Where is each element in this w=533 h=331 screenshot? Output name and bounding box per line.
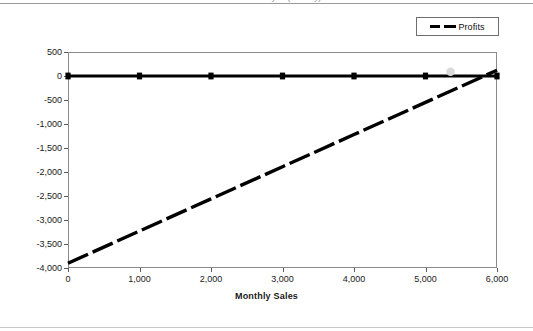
y-tick-mark (64, 76, 68, 77)
y-tick-label: 500 (16, 47, 62, 57)
x-tick-mark (497, 268, 498, 272)
x-tick-mark (283, 268, 284, 272)
y-tick-label: -3,000 (16, 215, 62, 225)
y-tick-label: -500 (16, 95, 62, 105)
plot-area (68, 52, 497, 268)
y-tick-mark (64, 196, 68, 197)
x-axis-title: Monthly Sales (0, 291, 533, 301)
x-tick-label: 3,000 (271, 274, 294, 284)
x-tick-mark (140, 268, 141, 272)
bottom-divider-rule (0, 327, 533, 328)
y-tick-mark (64, 172, 68, 173)
y-tick-mark (64, 100, 68, 101)
chart-legend: Profits (416, 17, 499, 36)
y-tick-label: -1,500 (16, 143, 62, 153)
y-tick-mark (64, 244, 68, 245)
x-tick-mark (354, 268, 355, 272)
x-tick-label: 2,000 (200, 274, 223, 284)
y-tick-mark (64, 148, 68, 149)
legend-item-label: Profits (458, 22, 484, 32)
legend-dashed-line-icon (430, 25, 456, 28)
top-divider-rule (0, 3, 533, 4)
x-tick-mark (68, 268, 69, 272)
x-tick-label: 1,000 (128, 274, 151, 284)
y-tick-label: -3,500 (16, 239, 62, 249)
chart-title-clipped: Break-Even Analysis (Monthly) (0, 0, 533, 2)
y-tick-label: -1,000 (16, 119, 62, 129)
y-tick-mark (64, 52, 68, 53)
y-tick-label: -2,500 (16, 191, 62, 201)
x-tick-label: 4,000 (343, 274, 366, 284)
y-tick-label: -2,000 (16, 167, 62, 177)
x-tick-label: 5,000 (414, 274, 437, 284)
x-tick-label: 0 (65, 274, 70, 284)
x-tick-label: 6,000 (486, 274, 509, 284)
x-tick-mark (426, 268, 427, 272)
x-tick-mark (211, 268, 212, 272)
y-tick-label: 0 (16, 71, 62, 81)
y-tick-mark (64, 220, 68, 221)
y-tick-label: -4,000 (16, 263, 62, 273)
y-tick-mark (64, 124, 68, 125)
